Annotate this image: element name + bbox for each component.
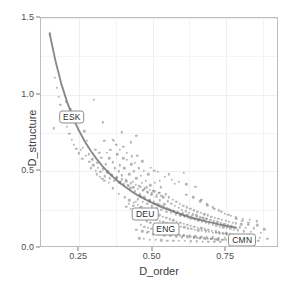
data-point [137,204,139,206]
y-tick-mark [36,247,40,248]
data-point [160,186,162,188]
data-point [52,127,54,129]
data-point [91,158,93,160]
x-tick-mark [225,247,226,251]
data-point [79,149,81,151]
data-point [210,238,212,240]
data-point [121,131,123,133]
data-point [131,155,133,157]
data-point [183,223,185,225]
data-point [116,153,118,155]
annotation-label-esk[interactable]: ESK [59,110,85,123]
data-point [161,215,163,217]
data-point [227,224,229,226]
data-point [143,225,145,227]
data-point [123,183,125,185]
data-point [238,226,240,228]
data-point [200,212,202,214]
data-point [187,227,189,229]
data-point [103,180,105,182]
scatter-plot-figure: ESKDEUENGCMN 0.00.51.01.5 0.250.500.75 D… [0,0,292,285]
annotation-label-deu[interactable]: DEU [132,207,159,220]
data-point [170,212,172,214]
data-point [160,239,162,241]
data-point [167,200,169,202]
data-point [201,240,203,242]
data-point [102,168,104,170]
data-point [168,196,170,198]
data-point [134,190,136,192]
data-point [197,229,199,231]
data-point [108,157,110,159]
y-tick-mark [36,17,40,18]
data-point [99,171,101,173]
data-point [206,204,208,206]
data-point [135,177,137,179]
data-point [194,185,196,187]
data-point [68,133,70,135]
data-point [143,238,145,240]
data-point [223,212,225,214]
data-point [97,166,99,168]
data-point [217,218,219,220]
data-point [256,224,258,226]
data-point [233,228,235,230]
data-point [87,153,89,155]
data-point [175,235,177,237]
data-point [181,208,183,210]
data-point [193,237,195,239]
annotation-label-eng[interactable]: ENG [152,222,179,235]
data-point [132,186,134,188]
data-point [259,236,261,238]
data-point [85,139,87,141]
data-point [260,231,262,233]
data-point [93,98,95,100]
annotation-label-cmn[interactable]: CMN [228,233,256,246]
data-point [153,190,155,192]
data-point [160,209,162,211]
data-point [159,199,161,201]
data-point [184,240,186,242]
data-point [109,177,111,179]
data-point [150,167,152,169]
data-point [225,227,227,229]
data-point [119,149,121,151]
data-point [107,182,109,184]
data-point [54,77,56,79]
data-point [141,230,143,232]
data-point [166,239,168,241]
data-point [112,187,114,189]
data-point [174,205,176,207]
data-point [247,224,249,226]
data-point [203,213,205,215]
data-point [224,239,226,241]
data-point [190,228,192,230]
data-point [146,203,148,205]
data-point [240,223,242,225]
data-point [90,167,92,169]
data-point [201,230,203,232]
y-axis-title: D_structure [26,78,38,198]
data-point [125,180,127,182]
data-point [193,209,195,211]
data-point [216,221,218,223]
data-point [136,155,138,157]
data-point [65,100,67,102]
data-point [245,227,247,229]
data-point [104,175,106,177]
data-point [102,121,104,123]
data-point [168,173,170,175]
data-point [213,208,215,210]
data-point [111,161,113,163]
data-point [49,32,51,34]
data-point [224,220,226,222]
data-point [94,169,96,171]
data-point [263,228,265,230]
data-point [126,159,128,161]
data-point [180,225,182,227]
data-point [141,160,143,162]
x-tick-mark [151,247,152,251]
data-point [146,220,148,222]
data-point [220,222,222,224]
data-point [189,208,191,210]
